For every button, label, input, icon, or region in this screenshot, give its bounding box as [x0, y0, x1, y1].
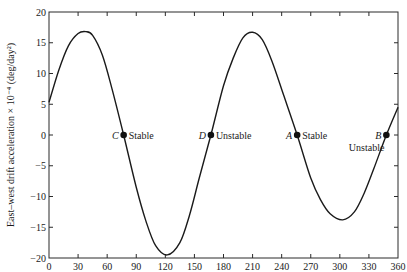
point-c: CStable [112, 130, 154, 141]
y-tick-label: 20 [36, 7, 46, 18]
x-tick-label: 90 [131, 261, 141, 272]
y-tick-label: 5 [41, 99, 46, 110]
point-marker [120, 132, 127, 139]
point-letter: A [285, 130, 293, 141]
point-letter: C [112, 130, 119, 141]
x-tick-label: 180 [216, 261, 231, 272]
x-tick-label: 270 [303, 261, 318, 272]
point-a: AStable [285, 130, 328, 141]
x-tick-label: 0 [47, 261, 52, 272]
x-tick-label: 240 [274, 261, 289, 272]
x-tick-label: 150 [187, 261, 202, 272]
x-tick-label: 330 [361, 261, 376, 272]
x-tick-label: 360 [391, 261, 406, 272]
x-tick-label: 210 [245, 261, 260, 272]
x-tick-label: 120 [158, 261, 173, 272]
equilibrium-points: CStableDUnstableAStableBUnstable [112, 130, 390, 154]
point-status: Unstable [349, 142, 385, 153]
x-tick-label: 60 [102, 261, 112, 272]
point-marker [294, 132, 301, 139]
y-tick-label: 10 [36, 68, 46, 79]
point-d: DUnstable [198, 130, 252, 141]
x-tick-label: 300 [332, 261, 347, 272]
chart: 0306090120150180210240270300330360 20151… [0, 0, 407, 272]
y-tick-label: −10 [30, 191, 46, 202]
point-letter: D [198, 130, 207, 141]
point-b: BUnstable [349, 130, 390, 154]
y-tick-label: −15 [30, 222, 46, 233]
point-marker [208, 132, 215, 139]
y-tick-label: −5 [35, 160, 46, 171]
point-status: Stable [129, 130, 155, 141]
y-tick-label: 0 [41, 130, 46, 141]
x-tick-label: 30 [73, 261, 83, 272]
point-marker [383, 132, 390, 139]
y-tick-label: 15 [36, 37, 46, 48]
point-status: Unstable [216, 130, 252, 141]
point-status: Stable [302, 130, 328, 141]
y-tick-label: −20 [30, 253, 46, 264]
acceleration-curve [49, 31, 398, 254]
point-letter: B [375, 130, 381, 141]
y-axis-label: East–west drift acceleration × 10⁻⁴ (deg… [5, 43, 17, 227]
